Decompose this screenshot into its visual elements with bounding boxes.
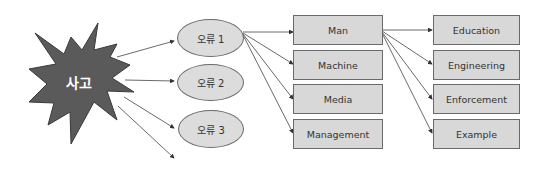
cause-man: Man	[293, 15, 383, 45]
error-node-2: 오류 2	[177, 64, 244, 101]
measure-enforcement: Enforcement	[433, 84, 520, 114]
cause-machine: Machine	[293, 50, 383, 80]
cause-media: Media	[293, 84, 383, 114]
measure-engineering: Engineering	[433, 50, 520, 80]
cause-management: Management	[293, 119, 383, 149]
measure-example: Example	[433, 119, 520, 149]
error-arrows	[243, 32, 293, 133]
cause-arrows	[382, 30, 432, 133]
error-node-1: 오류 1	[177, 19, 244, 57]
burst-arrows	[117, 41, 174, 158]
accident-label: 사고	[54, 72, 104, 92]
error-node-3: 오류 3	[178, 110, 244, 148]
accident-cause-diagram: 사고 오류 1 오류 2 오류 3 Man Machine Media Mana…	[0, 0, 548, 172]
measure-education: Education	[433, 15, 520, 45]
